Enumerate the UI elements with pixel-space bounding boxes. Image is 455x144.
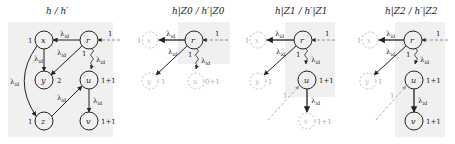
svg-text:λid: λid: [275, 30, 285, 39]
diagram-canvas: h / h′ x 1 r y 2 u 1+1 z 1 v 1+: [0, 0, 455, 144]
svg-text:1: 1: [296, 51, 300, 59]
svg-text:z: z: [40, 117, 46, 126]
node-x-faint: x 1: [137, 32, 158, 48]
svg-text:1: 1: [188, 51, 192, 59]
panel-title: h / h′: [46, 6, 68, 16]
svg-text:v: v: [304, 118, 308, 126]
node-v-faint: v 1+1: [299, 113, 332, 129]
svg-text:x: x: [147, 37, 151, 45]
svg-text:1: 1: [325, 30, 329, 38]
svg-text:1: 1: [436, 30, 440, 38]
svg-text:v: v: [411, 117, 416, 126]
panel-h-z2: h|Z2 / h′|Z2 x 1 r y 1 u 1+1 v 1+1 λid: [357, 6, 448, 137]
panel-title: h|Z2 / h′|Z2: [385, 6, 438, 17]
svg-text:1+1: 1+1: [426, 118, 441, 126]
svg-text:1: 1: [283, 92, 287, 100]
svg-text:λid: λid: [386, 30, 396, 39]
svg-text:x: x: [255, 37, 259, 45]
node-r: r: [80, 31, 98, 49]
svg-text:x: x: [367, 37, 371, 45]
node-y-faint: y 1: [250, 73, 272, 89]
panel-title: h|Z0 / h′|Z0: [172, 6, 225, 17]
node-r: r: [404, 31, 422, 49]
panel-h-z0: h|Z0 / h′|Z0 x 1 r y 1 u 0+1 λid λid: [137, 6, 230, 89]
node-r: r: [185, 31, 203, 49]
svg-text:1: 1: [245, 37, 249, 45]
svg-text:1+1: 1+1: [317, 118, 332, 126]
panel-h-z1: h|Z1 / h′|Z1 x 1 r y 1 u 1+1 v 1+1 λid: [245, 6, 335, 129]
svg-text:1: 1: [390, 92, 394, 100]
node-y-faint: y 1: [360, 73, 382, 89]
svg-text:u: u: [411, 76, 416, 85]
node-weight: 2: [57, 77, 61, 85]
svg-text:1+1: 1+1: [426, 77, 441, 85]
svg-text:u: u: [86, 76, 91, 85]
svg-text:1: 1: [406, 51, 410, 59]
node-x-faint: x 1: [357, 32, 378, 48]
node-x-faint: x 1: [245, 32, 266, 48]
svg-text:v: v: [86, 117, 91, 126]
node-u-faint: u 0+1: [188, 73, 220, 89]
svg-text:1: 1: [82, 50, 86, 58]
svg-text:1: 1: [357, 37, 361, 45]
svg-text:1: 1: [268, 78, 272, 86]
node-weight: 1+1: [101, 77, 116, 85]
svg-text:0+1: 0+1: [205, 78, 220, 86]
svg-text:x: x: [41, 36, 46, 45]
panel-title: h|Z1 / h′|Z1: [275, 6, 327, 17]
node-weight: 1: [28, 37, 32, 45]
svg-text:1+1: 1+1: [319, 77, 334, 85]
node-r: r: [294, 31, 312, 49]
node-weight: 1: [28, 118, 32, 126]
svg-text:λid: λid: [276, 48, 286, 57]
svg-text:1: 1: [137, 37, 141, 45]
svg-text:1: 1: [378, 78, 382, 86]
panel-h-h-prime: h / h′ x 1 r y 2 u 1+1 z 1 v 1+: [8, 6, 120, 137]
svg-text:u: u: [193, 78, 198, 86]
svg-text:u: u: [304, 76, 309, 85]
node-y-faint: y 1: [142, 73, 165, 89]
svg-text:1: 1: [161, 78, 165, 86]
svg-text:λid: λid: [386, 48, 396, 57]
svg-text:1: 1: [215, 30, 219, 38]
svg-text:λid: λid: [166, 30, 176, 39]
svg-text:y: y: [40, 76, 46, 85]
svg-text:λid: λid: [311, 97, 321, 106]
node-weight: 1+1: [101, 118, 116, 126]
svg-text:1: 1: [108, 30, 112, 38]
svg-text:λid: λid: [168, 48, 178, 57]
